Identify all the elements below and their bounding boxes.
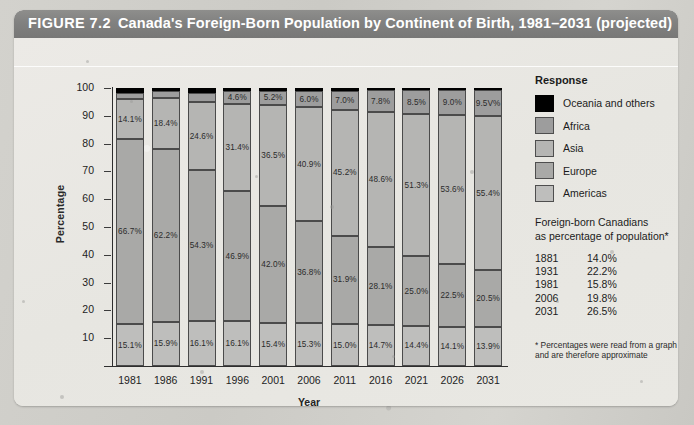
bar-segment-europe[interactable]: 28.1% <box>367 247 395 325</box>
bar-segment-africa[interactable]: 8.5% <box>402 90 430 114</box>
stats-row-year: 2031 <box>535 305 587 318</box>
legend-title: Response <box>535 74 675 86</box>
y-tick-mark <box>104 144 111 145</box>
bar-segment-asia[interactable]: 31.4% <box>223 104 251 191</box>
y-tick-label: 50 <box>60 220 94 232</box>
bar-2006[interactable]: 15.3%36.8%40.9%6.0% <box>295 88 323 366</box>
bar-1986[interactable]: 15.9%62.2%18.4% <box>152 88 180 366</box>
bar-segment-europe[interactable]: 31.9% <box>331 236 359 325</box>
y-tick-mark <box>104 310 111 311</box>
bar-2016[interactable]: 14.7%28.1%48.6%7.8% <box>367 88 395 366</box>
legend-item-americas[interactable]: Americas <box>535 183 675 203</box>
bar-1981[interactable]: 15.1%66.7%14.1% <box>116 88 144 366</box>
segment-value-label: 4.6% <box>228 93 247 102</box>
bar-segment-africa[interactable]: 7.8% <box>367 90 395 112</box>
bar-segment-africa[interactable]: 4.6% <box>223 91 251 104</box>
bar-segment-africa[interactable]: 7.0% <box>331 91 359 110</box>
scan-speck <box>130 100 133 103</box>
legend-swatch-icon <box>535 185 554 202</box>
bar-segment-asia[interactable]: 18.4% <box>152 98 180 149</box>
bar-segment-oceania-and-others[interactable] <box>223 88 251 91</box>
legend-item-oceania-and-others[interactable]: Oceania and others <box>535 93 675 113</box>
bar-segment-americas[interactable]: 15.0% <box>331 324 359 366</box>
bar-segment-europe[interactable]: 36.8% <box>295 221 323 323</box>
x-tick-label-2006: 2006 <box>291 374 327 386</box>
bar-segment-asia[interactable]: 36.5% <box>259 105 287 206</box>
bar-segment-oceania-and-others[interactable] <box>474 88 502 90</box>
bar-segment-africa[interactable]: 6.0% <box>295 91 323 108</box>
bar-segment-americas[interactable]: 15.4% <box>259 323 287 366</box>
segment-value-label: 28.1% <box>369 282 393 291</box>
bar-segment-asia[interactable]: 53.6% <box>438 115 466 264</box>
bar-segment-europe[interactable]: 22.5% <box>438 264 466 327</box>
bar-segment-europe[interactable]: 46.9% <box>223 191 251 321</box>
bar-2031[interactable]: 13.9%20.5%55.4%9.5V% <box>474 88 502 366</box>
bar-2001[interactable]: 15.4%42.0%36.5%5.2% <box>259 88 287 366</box>
bar-segment-americas[interactable]: 14.1% <box>438 327 466 366</box>
bar-segment-africa[interactable]: 5.2% <box>259 91 287 105</box>
y-tick-mark <box>104 283 111 284</box>
bar-segment-americas[interactable]: 14.7% <box>367 325 395 366</box>
stats-row: 203126.5% <box>535 305 678 318</box>
bar-1991[interactable]: 16.1%54.3%24.6% <box>188 88 216 366</box>
bar-segment-americas[interactable]: 15.3% <box>295 323 323 366</box>
bar-1996[interactable]: 16.1%46.9%31.4%4.6% <box>223 88 251 366</box>
bar-segment-europe[interactable]: 25.0% <box>402 256 430 326</box>
segment-value-label: 7.8% <box>371 97 390 106</box>
bar-segment-europe[interactable]: 42.0% <box>259 206 287 323</box>
bar-segment-americas[interactable]: 14.4% <box>402 326 430 366</box>
scan-speck <box>22 300 25 303</box>
bar-segment-europe[interactable]: 62.2% <box>152 149 180 322</box>
x-tick-label-2026: 2026 <box>434 374 470 386</box>
bar-segment-europe[interactable]: 66.7% <box>116 139 144 324</box>
segment-value-label: 31.4% <box>226 143 250 152</box>
bar-segment-americas[interactable]: 16.1% <box>188 321 216 366</box>
bar-segment-oceania-and-others[interactable] <box>331 88 359 91</box>
bar-segment-asia[interactable]: 40.9% <box>295 107 323 221</box>
segment-value-label: 36.8% <box>297 268 321 277</box>
bar-segment-africa[interactable]: 9.0% <box>438 90 466 115</box>
bar-segment-oceania-and-others[interactable] <box>116 88 144 93</box>
legend-item-africa[interactable]: Africa <box>535 116 675 136</box>
x-tick-label-1981: 1981 <box>112 374 148 386</box>
legend-item-europe[interactable]: Europe <box>535 161 675 181</box>
bar-segment-oceania-and-others[interactable] <box>259 88 287 91</box>
legend-items: Oceania and othersAfricaAsiaEuropeAmeric… <box>535 93 675 203</box>
bar-segment-americas[interactable]: 13.9% <box>474 327 502 366</box>
bar-segment-asia[interactable]: 48.6% <box>367 112 395 247</box>
bar-segment-oceania-and-others[interactable] <box>402 88 430 90</box>
bar-segment-africa[interactable] <box>152 91 180 98</box>
bar-segment-asia[interactable]: 55.4% <box>474 116 502 270</box>
segment-value-label: 36.5% <box>261 151 285 160</box>
bar-segment-americas[interactable]: 15.9% <box>152 322 180 366</box>
legend-swatch-icon <box>535 95 554 112</box>
x-axis-line <box>104 366 508 367</box>
bar-segment-africa[interactable] <box>116 93 144 99</box>
segment-value-label: 55.4% <box>476 189 500 198</box>
y-tick-mark <box>104 338 111 339</box>
segment-value-label: 48.6% <box>369 175 393 184</box>
bar-segment-oceania-and-others[interactable] <box>438 88 466 90</box>
segment-value-label: 14.4% <box>405 341 429 350</box>
bar-2011[interactable]: 15.0%31.9%45.2%7.0% <box>331 88 359 366</box>
segment-value-label: 9.0% <box>443 98 462 107</box>
bar-segment-americas[interactable]: 15.1% <box>116 324 144 366</box>
legend-item-asia[interactable]: Asia <box>535 138 675 158</box>
bar-segment-americas[interactable]: 16.1% <box>223 321 251 366</box>
x-tick-label-1991: 1991 <box>184 374 220 386</box>
bar-segment-oceania-and-others[interactable] <box>367 88 395 90</box>
y-tick-mark <box>104 88 111 89</box>
bar-segment-asia[interactable]: 51.3% <box>402 114 430 257</box>
bar-segment-oceania-and-others[interactable] <box>152 88 180 91</box>
bar-segment-oceania-and-others[interactable] <box>188 88 216 93</box>
bar-2021[interactable]: 14.4%25.0%51.3%8.5% <box>402 88 430 366</box>
bar-segment-africa[interactable] <box>188 93 216 102</box>
bar-segment-africa[interactable]: 9.5V% <box>474 90 502 116</box>
bar-segment-asia[interactable]: 45.2% <box>331 110 359 236</box>
bar-segment-asia[interactable]: 14.1% <box>116 99 144 138</box>
bar-2026[interactable]: 14.1%22.5%53.6%9.0% <box>438 88 466 366</box>
bar-segment-europe[interactable]: 20.5% <box>474 270 502 327</box>
bar-segment-oceania-and-others[interactable] <box>295 88 323 91</box>
bar-segment-europe[interactable]: 54.3% <box>188 170 216 321</box>
bar-segment-asia[interactable]: 24.6% <box>188 102 216 170</box>
